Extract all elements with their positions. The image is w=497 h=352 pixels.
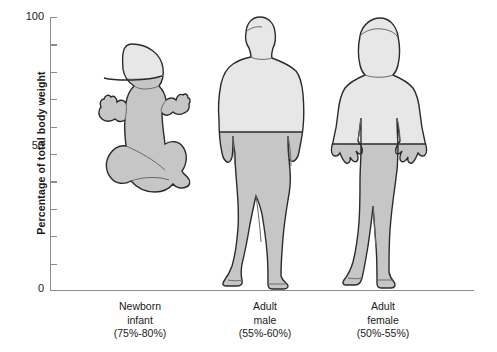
y-axis-tick: [51, 264, 57, 265]
y-axis-tick: [51, 209, 57, 210]
y-axis-tick: [51, 99, 57, 100]
caption-line-2: female: [308, 314, 458, 328]
caption-line-3: (50%-55%): [308, 327, 458, 341]
y-axis-tick: [51, 181, 57, 182]
y-axis-label-100: 100: [14, 10, 44, 22]
y-axis-tick: [51, 127, 57, 128]
y-axis-label-50: 50: [14, 139, 44, 151]
y-axis-tick: [51, 72, 57, 73]
adult-male-silhouette: [208, 14, 313, 294]
y-axis-label-0: 0: [14, 282, 44, 294]
y-axis-tick: [51, 290, 57, 291]
newborn-infant-silhouette: [70, 40, 200, 220]
body-water-chart: Percentage of total body weight 100 50 0: [0, 0, 497, 352]
y-axis-tick: [51, 236, 57, 237]
y-axis-tick: [51, 154, 57, 155]
caption-line-1: Adult: [308, 300, 458, 314]
category-caption-adult-female: Adult female (50%-55%): [308, 300, 458, 341]
adult-female-silhouette: [328, 14, 433, 294]
y-axis-tick: [51, 17, 57, 18]
y-axis-title: Percentage of total body weight: [35, 33, 47, 273]
y-axis-tick: [51, 44, 57, 45]
